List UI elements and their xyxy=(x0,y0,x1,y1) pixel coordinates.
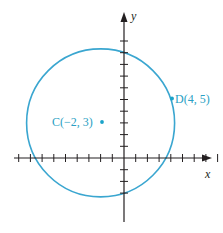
y-axis-label: y xyxy=(130,9,137,23)
x-axis xyxy=(14,154,223,162)
x-axis-label: x xyxy=(204,167,211,181)
y-axis-arrow-icon xyxy=(121,12,128,22)
x-axis-arrow-icon xyxy=(202,155,212,162)
point-d-dot xyxy=(170,97,174,101)
y-axis xyxy=(120,12,128,222)
point-c-label: C(−2, 3) xyxy=(52,115,93,129)
coordinate-diagram: x y C(−2, 3) D(4, 5) xyxy=(0,0,223,233)
point-d-label: D(4, 5) xyxy=(175,92,210,106)
point-c-dot xyxy=(100,120,104,124)
